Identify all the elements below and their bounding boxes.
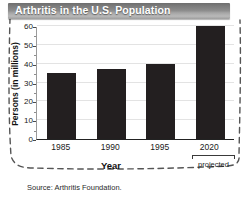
chart-figure: Arthritis in the U.S. Population Persons… — [0, 0, 252, 197]
plot-inner — [37, 27, 234, 139]
bracket-right-tick — [234, 155, 235, 159]
y-tick-label: 50 — [24, 42, 33, 50]
bar — [196, 26, 225, 139]
source-note: Source: Arthritis Foundation. — [27, 183, 122, 192]
x-tick-label: 1990 — [101, 142, 120, 152]
x-tick-label: 1995 — [150, 142, 169, 152]
y-tick-label: 40 — [24, 61, 33, 69]
chart-title-bar: Arthritis in the U.S. Population — [8, 3, 230, 19]
bracket-line — [192, 155, 235, 156]
y-axis-ticks: 0102030405060 — [14, 27, 36, 140]
x-tick-label: 1985 — [51, 142, 70, 152]
x-axis-title: Year — [36, 160, 186, 171]
bracket-left-tick — [192, 155, 193, 159]
bar — [146, 64, 175, 139]
y-tick-label: 10 — [24, 117, 33, 125]
x-axis-ticks: 1985199019952020 — [36, 142, 234, 155]
plot-area — [36, 27, 234, 140]
bar — [97, 69, 126, 139]
x-tick-label: 2020 — [200, 142, 219, 152]
bar — [47, 73, 76, 139]
projected-annotation: projected — [192, 160, 235, 169]
y-tick-label: 60 — [24, 23, 33, 31]
y-tick-label: 30 — [24, 80, 33, 88]
page-title: Arthritis in the U.S. Population — [15, 4, 170, 16]
y-tick-label: 20 — [24, 98, 33, 106]
y-tick-mark — [33, 140, 36, 141]
